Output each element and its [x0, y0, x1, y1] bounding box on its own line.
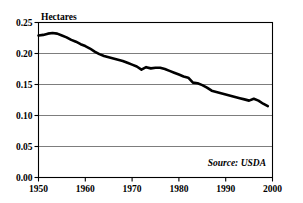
y-tick-label: 0.10: [16, 111, 33, 121]
y-tick-label: 0.15: [16, 80, 33, 90]
x-tick-label: 1960: [76, 184, 95, 194]
data-series-line: [39, 33, 268, 106]
plot-frame: [39, 23, 273, 178]
line-chart: Hectares 0.000.050.100.150.200.25 195019…: [0, 0, 303, 203]
x-tick-label: 2000: [263, 184, 282, 194]
x-tick-label: 1950: [29, 184, 48, 194]
y-tick-label: 0.20: [16, 49, 33, 59]
y-axis-title: Hectares: [41, 12, 77, 22]
source-note: Source: USDA: [208, 158, 266, 168]
x-tick-label: 1990: [216, 184, 235, 194]
x-tick-label: 1970: [123, 184, 142, 194]
y-tick-label: 0.05: [16, 142, 33, 152]
x-tick-label: 1980: [169, 184, 188, 194]
y-tick-label: 0.00: [16, 173, 33, 183]
y-tick-label: 0.25: [16, 18, 33, 28]
chart-container: Hectares 0.000.050.100.150.200.25 195019…: [0, 0, 303, 203]
x-axis-ticks: 195019601970198019902000: [29, 178, 282, 195]
y-axis-ticks: 0.000.050.100.150.200.25: [16, 18, 39, 183]
